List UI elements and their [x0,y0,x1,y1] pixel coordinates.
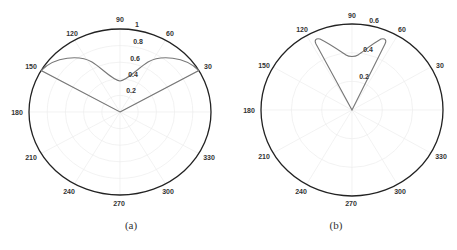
angle-label-60: 60 [166,30,174,37]
angle-label-270: 270 [113,200,125,207]
angle-label-120: 120 [296,26,308,33]
angle-label-120: 120 [66,30,78,37]
angle-label-300: 300 [162,188,174,195]
radial-label-0.4: 0.4 [363,46,373,53]
angle-label-300: 300 [394,188,406,195]
angle-label-330: 330 [435,153,447,160]
pattern-curve-b [315,39,386,110]
angle-label-150: 150 [258,62,270,69]
angle-label-90: 90 [116,16,124,23]
figure: 90 60 30 120 150 180 210 240 270 300 330… [0,0,457,250]
radial-label-1: 1 [135,21,139,28]
angle-label-330: 330 [203,154,215,161]
angle-label-30: 30 [204,63,212,70]
angle-label-270: 270 [345,200,357,207]
angle-label-210: 210 [25,154,37,161]
radial-label-0.8: 0.8 [133,38,143,45]
angle-label-90: 90 [348,12,356,19]
angle-label-180: 180 [11,109,23,116]
polar-plot-b: 90 60 30 120 150 180 210 240 270 300 330… [243,12,447,232]
angle-label-180: 180 [243,107,255,114]
radial-label-0.4: 0.4 [128,71,138,78]
caption-a: (a) [125,219,138,232]
polar-plot-a: 90 60 30 120 150 180 210 240 270 300 330… [11,16,215,232]
angle-label-60: 60 [398,26,406,33]
radial-label-0.2: 0.2 [359,73,369,80]
angle-label-210: 210 [258,153,270,160]
angle-label-150: 150 [25,63,37,70]
angle-label-240: 240 [295,188,307,195]
angle-label-30: 30 [436,62,444,69]
radial-label-0.6: 0.6 [369,17,379,24]
radial-label-0.6: 0.6 [130,55,140,62]
radial-label-0.2: 0.2 [126,87,136,94]
angle-label-240: 240 [63,188,75,195]
caption-b: (b) [330,219,343,232]
